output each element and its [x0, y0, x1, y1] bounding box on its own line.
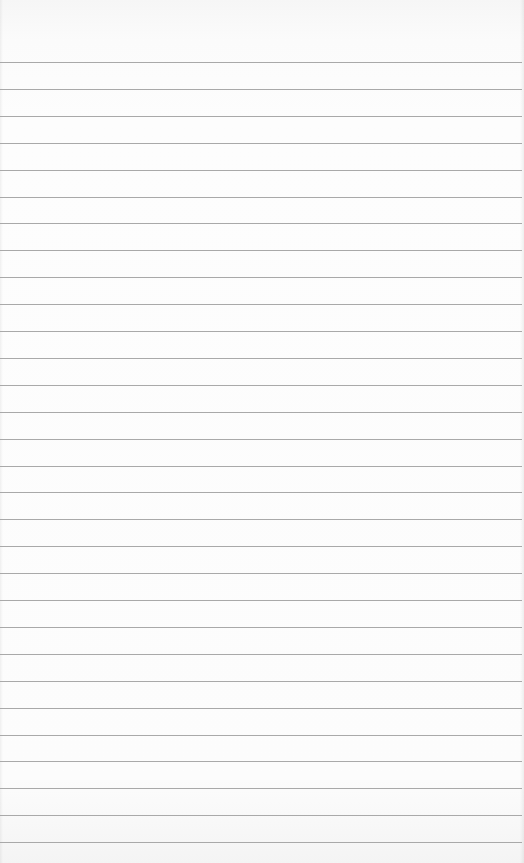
ruled-line: [0, 519, 522, 520]
lined-paper-sheet: [0, 0, 524, 863]
ruled-line: [0, 223, 522, 224]
ruled-line: [0, 492, 522, 493]
ruled-line: [0, 681, 522, 682]
paper-right-edge: [520, 0, 524, 863]
ruled-line: [0, 304, 522, 305]
ruled-line: [0, 573, 522, 574]
ruled-line: [0, 170, 522, 171]
ruled-line: [0, 143, 522, 144]
ruled-line: [0, 89, 522, 90]
ruled-line: [0, 627, 522, 628]
paper-left-edge: [0, 0, 3, 863]
ruled-line: [0, 331, 522, 332]
ruled-line: [0, 708, 522, 709]
ruled-line: [0, 358, 522, 359]
ruled-line: [0, 761, 522, 762]
ruled-line: [0, 735, 522, 736]
ruled-line: [0, 815, 522, 816]
ruled-line: [0, 197, 522, 198]
ruled-line: [0, 277, 522, 278]
ruled-line: [0, 842, 522, 843]
ruled-line: [0, 466, 522, 467]
ruled-line: [0, 788, 522, 789]
ruled-line: [0, 62, 522, 63]
ruled-line: [0, 600, 522, 601]
ruled-line: [0, 250, 522, 251]
ruled-line: [0, 412, 522, 413]
ruled-line: [0, 439, 522, 440]
ruled-line: [0, 116, 522, 117]
ruled-line: [0, 385, 522, 386]
ruled-line: [0, 546, 522, 547]
ruled-line: [0, 654, 522, 655]
